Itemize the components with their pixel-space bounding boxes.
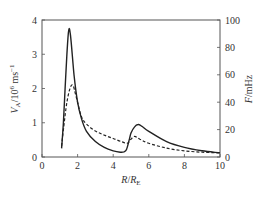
y-right-tick-label: 100 bbox=[225, 15, 240, 26]
chart: 024681001234020406080100 VA/106 ms−1 F/m… bbox=[0, 0, 265, 197]
x-axis-label: R/RE bbox=[120, 174, 140, 187]
x-tick-label: 8 bbox=[182, 160, 187, 171]
y-right-tick-label: 60 bbox=[225, 69, 235, 80]
y-left-tick-label: 3 bbox=[32, 49, 37, 60]
y-left-tick-label: 0 bbox=[32, 152, 37, 163]
plot-frame bbox=[42, 20, 220, 157]
y-axis-right-label: F/mHz bbox=[243, 74, 254, 104]
y-axis-left-label: VA/106 ms−1 bbox=[8, 64, 22, 114]
y-left-tick-label: 1 bbox=[32, 117, 37, 128]
plot-series bbox=[62, 29, 220, 153]
x-tick-label: 4 bbox=[111, 160, 116, 171]
y-right-tick-label: 20 bbox=[225, 124, 235, 135]
x-tick-label: 0 bbox=[40, 160, 45, 171]
y-left-tick-label: 4 bbox=[32, 15, 37, 26]
series-va-solid-line bbox=[62, 29, 220, 153]
x-tick-label: 2 bbox=[75, 160, 80, 171]
y-right-tick-label: 0 bbox=[225, 152, 230, 163]
plot-axes: 024681001234020406080100 bbox=[32, 15, 240, 172]
y-left-tick-label: 2 bbox=[32, 83, 37, 94]
y-right-tick-label: 40 bbox=[225, 97, 235, 108]
y-right-tick-label: 80 bbox=[225, 42, 235, 53]
x-tick-label: 10 bbox=[215, 160, 225, 171]
x-tick-label: 6 bbox=[146, 160, 151, 171]
series-f-dashed-line bbox=[62, 85, 220, 153]
